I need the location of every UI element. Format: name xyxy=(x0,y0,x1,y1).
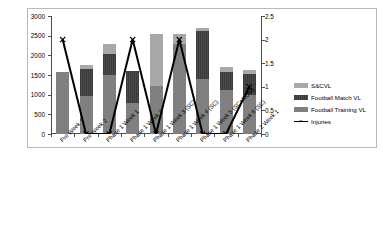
legend-color-swatch xyxy=(294,95,308,100)
legend-item: Football Training VL xyxy=(294,104,376,115)
legend-item: Football Match VL xyxy=(294,92,376,103)
legend-injuries-line-icon: × xyxy=(294,118,308,125)
chart-legend: S&CVLFootball Match VLFootball Training … xyxy=(294,80,376,128)
legend-item: S&CVL xyxy=(294,80,376,91)
legend-item-label: Football Training VL xyxy=(311,106,366,113)
legend-color-swatch xyxy=(294,83,308,88)
legend-color-swatch xyxy=(294,107,308,112)
x-axis-label: Phase 1 Week 6 (SC) xyxy=(222,99,267,144)
legend-item: ×Injuries xyxy=(294,116,376,127)
x-axis-label: Phase 1 Week 4 (SC) xyxy=(175,99,220,144)
legend-item-label: S&CVL xyxy=(311,82,331,89)
x-axis-label: Pre Week 2 xyxy=(82,117,109,144)
legend-item-label: Injuries xyxy=(311,118,331,125)
x-axis-label: Phase 1 Week 3 (SC) xyxy=(152,99,197,144)
legend-item-label: Football Match VL xyxy=(311,94,361,101)
x-axis-label: Pre Week 1 xyxy=(59,117,86,144)
